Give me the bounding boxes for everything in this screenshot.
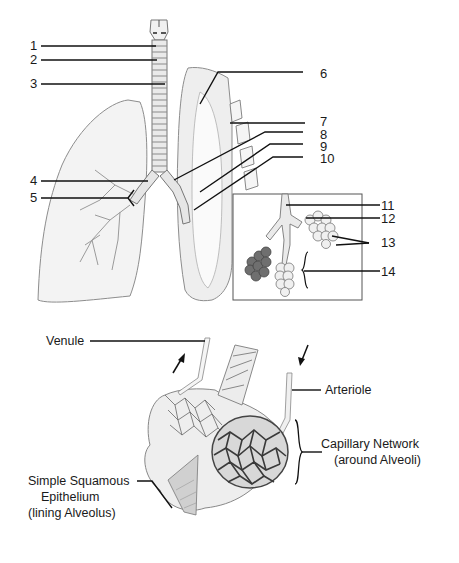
label-6: 6	[320, 67, 327, 80]
label-epithelium-2: Epithelium	[41, 490, 99, 504]
label-arteriole: Arteriole	[325, 383, 372, 397]
label-epithelium-3: (lining Alveolus)	[28, 506, 116, 520]
inset-box	[233, 194, 362, 300]
label-2: 2	[30, 53, 37, 66]
label-5: 5	[30, 191, 37, 204]
label-3: 3	[30, 77, 37, 90]
label-4: 4	[30, 174, 37, 187]
label-1: 1	[30, 39, 37, 52]
label-venule: Venule	[46, 334, 84, 348]
label-epithelium: Simple Squamous	[28, 474, 129, 488]
label-10: 10	[320, 152, 334, 165]
label-13: 13	[381, 236, 395, 249]
label-12: 12	[381, 212, 395, 225]
label-14: 14	[381, 265, 395, 278]
label-capillary-network-sub: (around Alveoli)	[334, 453, 421, 467]
label-capillary-network: Capillary Network	[321, 437, 419, 451]
